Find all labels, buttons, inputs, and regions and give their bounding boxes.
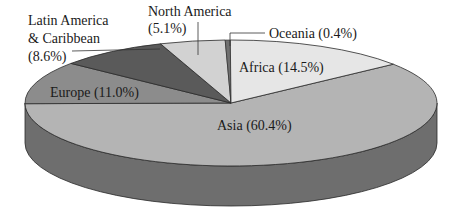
label-latin-america-2: & Caribbean [28,31,100,46]
label-oceania: Oceania (0.4%) [269,26,357,42]
label-north-america-1: North America [148,4,232,19]
label-asia: Asia (60.4%) [217,118,292,134]
label-latin-america-1: Latin America [28,13,109,28]
label-africa: Africa (14.5%) [239,60,324,76]
label-latin-america-3: (8.6%) [28,49,67,65]
label-north-america-2: (5.1%) [148,21,187,37]
pie-chart: Latin America & Caribbean (8.6%) North A… [0,0,457,216]
label-europe: Europe (11.0%) [50,85,139,101]
